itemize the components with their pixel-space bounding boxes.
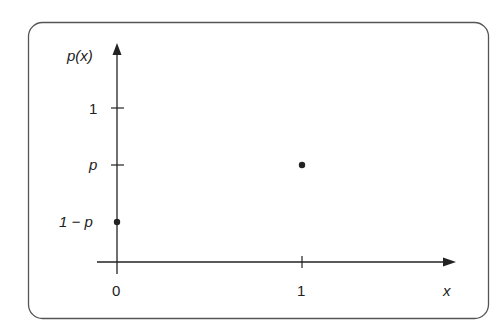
y-tick-label-p: p (88, 156, 97, 173)
y-tick-label-1: 1 (89, 100, 97, 117)
x-tick-label-1: 1 (297, 282, 305, 299)
chart-frame (29, 23, 489, 319)
data-point-x0 (114, 219, 120, 225)
x-axis-arrow-icon (443, 258, 456, 267)
y-axis-arrow-icon (113, 43, 122, 55)
y-axis-label: p(x) (66, 47, 93, 64)
x-tick-label-0: 0 (112, 282, 120, 299)
y-tick-label-1-minus-p: 1 − p (59, 213, 93, 230)
x-axis-label: x (442, 282, 451, 299)
pmf-chart: p(x) 1 p 1 − p 0 1 x (0, 0, 504, 333)
data-point-x1 (299, 162, 305, 168)
